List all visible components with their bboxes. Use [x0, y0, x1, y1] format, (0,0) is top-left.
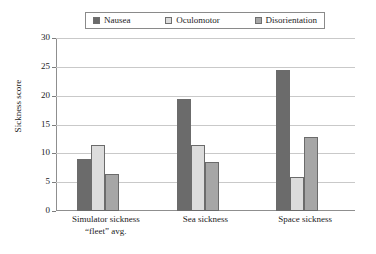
gridline [56, 38, 355, 39]
y-axis-tick-label: 5 [30, 177, 50, 186]
x-axis-tick-label-line1: Sea sickness [183, 214, 228, 224]
chart-legend: Nausea Oculomotor Disorientation [85, 12, 325, 29]
x-axis-tick-label: Sea sickness [156, 213, 256, 225]
bar-disorientation-group-1 [105, 174, 119, 211]
y-axis-tick-label: 10 [30, 148, 50, 157]
y-axis-tick [52, 211, 56, 212]
y-axis-title-text: Sickness score [13, 79, 23, 132]
bar-oculomotor-group-2 [191, 145, 205, 211]
legend-label-oculomotor: Oculomotor [176, 16, 220, 25]
bar-chart-figure: Nausea Oculomotor Disorientation Sicknes… [0, 0, 376, 254]
legend-swatch-disorientation-icon [255, 17, 262, 24]
bar-oculomotor-group-3 [290, 177, 304, 211]
gridline [56, 67, 355, 68]
y-axis-tick-label: 25 [30, 62, 50, 71]
gridline [56, 96, 355, 97]
y-axis-tick [52, 153, 56, 154]
y-axis-tick-label: 20 [30, 91, 50, 100]
legend-swatch-oculomotor-icon [165, 17, 172, 24]
y-axis-tick [52, 96, 56, 97]
gridline [56, 125, 355, 126]
y-axis-tick [52, 125, 56, 126]
legend-item-nausea: Nausea [93, 16, 131, 25]
bar-nausea-group-2 [177, 99, 191, 211]
y-axis-title: Sickness score [9, 0, 27, 211]
x-axis-tick-label: Simulator sickness“fleet” avg. [56, 213, 156, 237]
y-axis-tick-labels: 051015202530 [28, 38, 50, 211]
x-axis-tick-label: Space sickness [255, 213, 355, 225]
y-axis-tick [52, 67, 56, 68]
legend-swatch-nausea-icon [93, 17, 100, 24]
bar-disorientation-group-2 [205, 162, 219, 211]
bar-disorientation-group-3 [304, 137, 318, 211]
legend-label-nausea: Nausea [104, 16, 131, 25]
x-axis-tick-labels: Simulator sickness“fleet” avg.Sea sickne… [56, 213, 355, 253]
legend-label-disorientation: Disorientation [266, 16, 318, 25]
y-axis-tick [52, 182, 56, 183]
bar-nausea-group-3 [276, 70, 290, 211]
plot-area [56, 38, 355, 211]
y-axis-tick-label: 30 [30, 33, 50, 42]
bar-oculomotor-group-1 [91, 145, 105, 211]
legend-item-disorientation: Disorientation [255, 16, 318, 25]
bar-nausea-group-1 [77, 159, 91, 211]
y-axis-tick-label: 0 [30, 206, 50, 215]
y-axis-tick [52, 38, 56, 39]
y-axis-tick-label: 15 [30, 120, 50, 129]
x-axis-tick-label-line1: Space sickness [278, 214, 332, 224]
x-axis-tick-label-line2: “fleet” avg. [56, 225, 156, 237]
x-axis-tick-label-line1: Simulator sickness [72, 214, 140, 224]
legend-item-oculomotor: Oculomotor [165, 16, 220, 25]
